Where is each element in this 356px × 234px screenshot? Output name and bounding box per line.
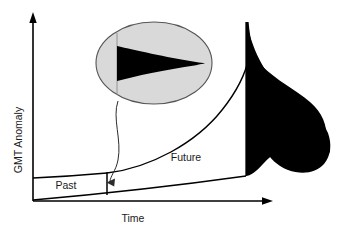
- figure-root: GMT Anomaly Time Past Future: [0, 0, 356, 234]
- past-region-label: Past: [55, 179, 76, 191]
- past-upper-bound-curve: [33, 173, 107, 178]
- magnifier-inset-group: [96, 22, 212, 104]
- future-region-label: Future: [171, 151, 202, 163]
- x-axis-label: Time: [122, 212, 145, 224]
- horizontal-axis-arrowhead: [262, 197, 273, 204]
- callout-leader-line: [110, 101, 119, 182]
- uncertainty-cone-chart: GMT Anomaly Time Past Future: [0, 0, 356, 234]
- y-axis-label: GMT Anomaly: [12, 106, 24, 173]
- vertical-axis-arrowhead: [29, 12, 36, 23]
- terminal-distribution-group: [246, 22, 330, 176]
